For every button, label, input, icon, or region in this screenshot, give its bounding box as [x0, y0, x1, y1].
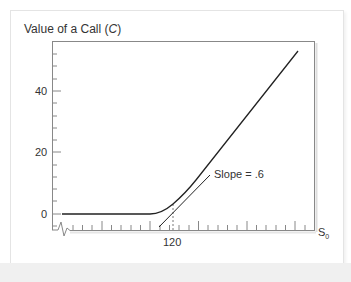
call-value-curve [62, 51, 298, 214]
slope-annotation: Slope = .6 [214, 168, 264, 180]
tangent-line [159, 175, 210, 227]
y-ticks [52, 54, 61, 226]
x-axis-label-sub: 0 [325, 233, 329, 240]
chart-svg: 40 20 0 120 Slope = .6 S0 [0, 0, 351, 282]
y-tick-label-40: 40 [35, 85, 47, 97]
y-tick-label-0: 0 [41, 208, 47, 220]
plot-frame [52, 41, 315, 236]
x-ticks [73, 221, 305, 230]
x-tick-label-120: 120 [163, 236, 181, 248]
x-axis-label: S0 [318, 226, 329, 240]
y-tick-label-20: 20 [35, 146, 47, 158]
x-axis-label-main: S [318, 226, 325, 238]
